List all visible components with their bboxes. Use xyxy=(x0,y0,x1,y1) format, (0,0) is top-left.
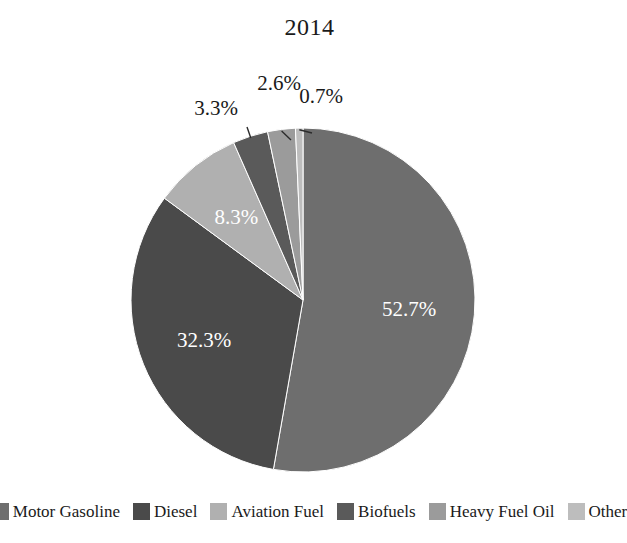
legend-color-swatch xyxy=(337,503,354,520)
slice-value-label: 0.7% xyxy=(299,84,343,108)
chart-legend: Motor GasolineDieselAviation FuelBiofuel… xyxy=(0,503,619,520)
legend-color-swatch xyxy=(0,503,9,520)
legend-item-label: Diesel xyxy=(154,503,197,520)
slice-value-label: 3.3% xyxy=(194,96,238,120)
legend-item[interactable]: Biofuels xyxy=(337,503,416,520)
legend-item-label: Aviation Fuel xyxy=(231,503,324,520)
pie-slice[interactable] xyxy=(273,128,475,472)
legend-item-label: Other xyxy=(589,503,627,520)
slice-value-label: 8.3% xyxy=(214,205,258,229)
slice-value-label: 2.6% xyxy=(257,71,301,95)
legend-item-label: Biofuels xyxy=(358,503,416,520)
legend-item[interactable]: Diesel xyxy=(133,503,197,520)
legend-item-label: Motor Gasoline xyxy=(13,503,120,520)
legend-color-swatch xyxy=(210,503,227,520)
legend-item[interactable]: Other xyxy=(568,503,627,520)
legend-item[interactable]: Motor Gasoline xyxy=(0,503,120,520)
legend-color-swatch xyxy=(133,503,150,520)
slice-value-label: 32.3% xyxy=(177,328,231,352)
legend-item-label: Heavy Fuel Oil xyxy=(450,503,555,520)
legend-item[interactable]: Heavy Fuel Oil xyxy=(429,503,555,520)
legend-color-swatch xyxy=(568,503,585,520)
slice-value-label: 52.7% xyxy=(382,297,436,321)
legend-color-swatch xyxy=(429,503,446,520)
legend-item[interactable]: Aviation Fuel xyxy=(210,503,324,520)
